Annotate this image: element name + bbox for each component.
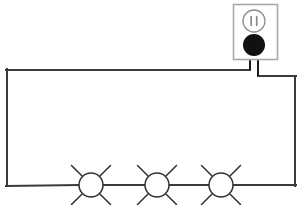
- lamp-2-envelope: [145, 173, 169, 197]
- socket-slot-right: [256, 16, 258, 26]
- wire-bottom-segment-1: [6, 185, 79, 186]
- circuit-diagram: Series circuit of three lamps connected …: [0, 0, 305, 205]
- lamp-3-envelope: [209, 173, 233, 197]
- socket-slot-left: [250, 16, 252, 26]
- circuit-schematic-canvas: [0, 0, 305, 205]
- plug-body: [243, 34, 265, 56]
- wall-outlet: [234, 5, 278, 60]
- outlet-socket-face: [243, 10, 265, 32]
- socket-outline-circle: [243, 10, 265, 32]
- lamp-1-envelope: [79, 173, 103, 197]
